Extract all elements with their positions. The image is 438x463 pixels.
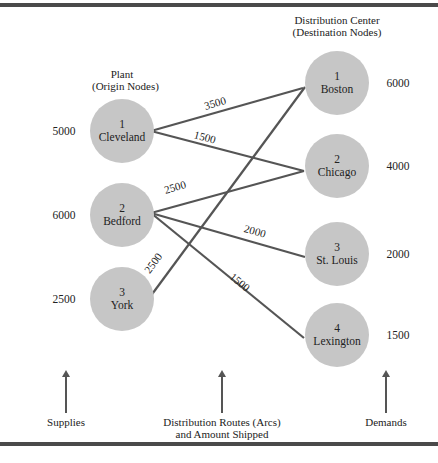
arc-cleveland-boston [151, 88, 303, 131]
node-name: York [111, 299, 133, 312]
node-name: Lexington [313, 335, 360, 348]
node-number: 2 [334, 153, 340, 166]
origin-node-york: 3York [90, 267, 154, 331]
destination-node-lexington: 4Lexington [305, 303, 369, 367]
supply-value: 2500 [53, 293, 76, 305]
demands-caption: Demands [365, 416, 407, 428]
node-number: 1 [334, 70, 340, 83]
routes-caption: Distribution Routes (Arcs) and Amount Sh… [163, 416, 280, 440]
node-name: St. Louis [316, 254, 358, 267]
demands-arrow-icon [385, 376, 387, 413]
demand-value: 1500 [387, 329, 410, 341]
destination-node-boston: 1Boston [305, 51, 369, 115]
supply-value: 6000 [53, 209, 76, 221]
supplies-caption: Supplies [47, 416, 85, 428]
node-number: 3 [334, 241, 340, 254]
node-name: Boston [321, 83, 354, 96]
demand-value: 2000 [387, 248, 410, 260]
supply-value: 5000 [53, 125, 76, 137]
node-number: 1 [119, 118, 125, 131]
arc-cleveland-chicago [151, 131, 304, 171]
origin-node-bedford: 2Bedford [90, 183, 154, 247]
node-name: Bedford [103, 215, 141, 228]
routes-caption-line1: Distribution Routes (Arcs) [163, 416, 280, 428]
origin-node-cleveland: 1Cleveland [90, 99, 154, 163]
node-name: Chicago [318, 166, 356, 179]
routes-arrow-icon [221, 376, 223, 413]
arc-bedford-lexington [151, 213, 304, 338]
bottom-rule [0, 442, 438, 446]
node-number: 4 [334, 322, 340, 335]
routes-caption-line2: and Amount Shipped [163, 428, 280, 440]
demand-value: 4000 [387, 160, 410, 172]
supplies-arrow-icon [65, 376, 67, 413]
arc-bedford-stlouis [151, 213, 305, 257]
demand-value: 6000 [387, 77, 410, 89]
node-number: 3 [119, 286, 125, 299]
destination-node-chicago: 2Chicago [305, 134, 369, 198]
node-name: Cleveland [99, 131, 146, 144]
node-number: 2 [119, 202, 125, 215]
destination-node-stlouis: 3St. Louis [305, 222, 369, 286]
